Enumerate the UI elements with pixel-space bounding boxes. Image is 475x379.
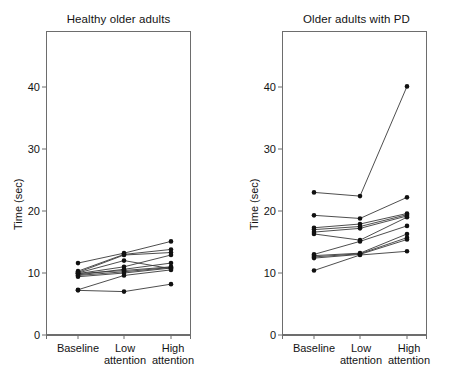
- x-axis-ticks: [46, 335, 191, 339]
- x-axis-ticks: [282, 335, 427, 339]
- plot-data-layer: [0, 0, 237, 379]
- series-line: [314, 197, 407, 218]
- series-markers: [76, 282, 174, 294]
- series-markers: [312, 84, 410, 198]
- panel-healthy-older-adults: Healthy older adults Time (sec) 40 30 20…: [0, 0, 237, 379]
- plot-data-layer: [238, 0, 475, 379]
- y-axis-ticks: [42, 87, 46, 335]
- series-markers: [312, 195, 410, 221]
- y-axis-ticks: [278, 87, 282, 335]
- figure-canvas: Healthy older adults Time (sec) 40 30 20…: [0, 0, 475, 379]
- panel-older-adults-with-pd: Older adults with PD Time (sec) 40 30 20…: [238, 0, 475, 379]
- series-line: [314, 86, 407, 196]
